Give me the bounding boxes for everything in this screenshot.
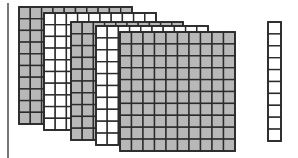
unit-cell (19, 19, 30, 31)
unit-cell (224, 56, 236, 68)
unit-cell (201, 92, 213, 104)
unit-cell (82, 22, 93, 34)
unit-cell (212, 92, 224, 104)
unit-cell (155, 115, 167, 127)
unit-cell (71, 57, 82, 69)
unit-cell (201, 68, 213, 80)
unit-cell (224, 68, 236, 80)
unit-cell (166, 80, 178, 92)
unit-cell (189, 56, 201, 68)
unit-cell (201, 103, 213, 115)
unit-cell (189, 80, 201, 92)
unit-cell (132, 127, 144, 139)
unit-cell (107, 133, 118, 145)
unit-cell (30, 30, 41, 42)
unit-cell (189, 32, 201, 44)
unit-cell (55, 25, 66, 37)
unit-cell (30, 42, 41, 54)
unit-cell (178, 68, 190, 80)
unit-cell (120, 139, 132, 151)
unit-cell (155, 80, 167, 92)
unit-cell (166, 32, 178, 44)
unit-cell (96, 109, 107, 121)
unit-cell (178, 115, 190, 127)
unit-cell (44, 60, 55, 72)
unit-cell (30, 66, 41, 78)
unit-cell (143, 56, 155, 68)
unit-cell (166, 103, 178, 115)
unit-cell (268, 22, 281, 34)
unit-cell (96, 50, 107, 62)
unit-cell (143, 139, 155, 151)
unit-cell (44, 72, 55, 84)
unit-cell (178, 92, 190, 104)
unit-cell (44, 25, 55, 37)
unit-cell (143, 127, 155, 139)
unit-cell (30, 89, 41, 101)
unit-cell (155, 92, 167, 104)
unit-cell (212, 68, 224, 80)
unit-cell (96, 97, 107, 109)
unit-cell (71, 116, 82, 128)
unit-cell (82, 57, 93, 69)
unit-cell (143, 103, 155, 115)
unit-cell (155, 127, 167, 139)
unit-cell (44, 118, 55, 130)
unit-cell (120, 32, 132, 44)
unit-cell (82, 105, 93, 117)
unit-cell (55, 95, 66, 107)
unit-cell (178, 80, 190, 92)
unit-cell (143, 115, 155, 127)
unit-cell (107, 109, 118, 121)
unit-cell (19, 66, 30, 78)
unit-cell (212, 80, 224, 92)
unit-cell (82, 116, 93, 128)
unit-cell (120, 68, 132, 80)
unit-cell (71, 22, 82, 34)
unit-cell (71, 105, 82, 117)
unit-cell (155, 68, 167, 80)
unit-cell (224, 139, 236, 151)
unit-cell (71, 81, 82, 93)
unit-cell (212, 115, 224, 127)
unit-cell (71, 128, 82, 140)
unit-cell (155, 103, 167, 115)
unit-cell (201, 139, 213, 151)
unit-cell (44, 13, 55, 25)
unit-cell (268, 82, 281, 94)
unit-cell (132, 139, 144, 151)
unit-cell (224, 127, 236, 139)
unit-cell (189, 127, 201, 139)
unit-cell (178, 32, 190, 44)
unit-cell (82, 93, 93, 105)
unit-cell (107, 121, 118, 133)
unit-cell (189, 115, 201, 127)
unit-cell (19, 30, 30, 42)
unit-cell (224, 115, 236, 127)
unit-cell (212, 139, 224, 151)
unit-cell (107, 38, 118, 50)
unit-cell (19, 7, 30, 19)
unit-cell (201, 80, 213, 92)
unit-cell (44, 107, 55, 119)
unit-cell (224, 32, 236, 44)
unit-cell (178, 103, 190, 115)
unit-cell (212, 127, 224, 139)
unit-cell (132, 44, 144, 56)
unit-cell (143, 32, 155, 44)
unit-cell (19, 77, 30, 89)
unit-cell (55, 48, 66, 60)
unit-cell (107, 86, 118, 98)
unit-cell (30, 77, 41, 89)
unit-cell (55, 83, 66, 95)
unit-cell (96, 121, 107, 133)
unit-cell (96, 86, 107, 98)
unit-cell (19, 42, 30, 54)
unit-cell (55, 13, 66, 25)
unit-cell (166, 127, 178, 139)
tens-rods (268, 22, 281, 141)
unit-cell (201, 44, 213, 56)
unit-cell (71, 69, 82, 81)
unit-cell (30, 101, 41, 113)
unit-cell (107, 62, 118, 74)
